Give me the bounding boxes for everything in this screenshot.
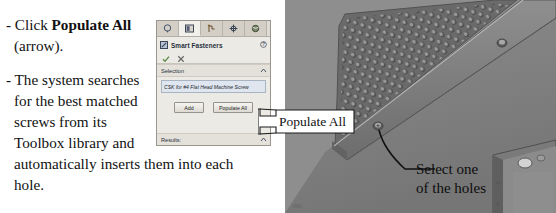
countersunk-hole[interactable] xyxy=(373,122,383,130)
annotation-line-2: of the holes xyxy=(416,179,486,198)
callout-label: Populate All xyxy=(279,108,353,135)
sphere-icon xyxy=(251,24,260,33)
solidworks-3d-viewport[interactable]: Select one of the holes xyxy=(285,0,556,213)
checkmark-icon[interactable] xyxy=(162,49,170,67)
bullet2-line-1: - The system searches xyxy=(6,71,139,88)
panel-icon xyxy=(185,24,194,33)
panel-title-bar: Smart Fasteners ? xyxy=(157,37,270,52)
flange-hole-secondary[interactable] xyxy=(497,39,507,47)
annotation-line-1: Select one xyxy=(416,160,486,179)
configuration-manager-tab[interactable] xyxy=(201,21,223,36)
crosshair-icon xyxy=(229,24,238,33)
panel-button-row[interactable]: Add Populate All xyxy=(157,102,270,113)
display-manager-tab[interactable] xyxy=(245,21,267,36)
panel-action-row[interactable] xyxy=(157,52,270,64)
svg-text:?: ? xyxy=(262,42,265,47)
property-manager-tabstrip[interactable] xyxy=(157,21,270,37)
results-group-header[interactable]: Results: xyxy=(157,133,270,145)
selection-group-label: Selection xyxy=(161,68,260,74)
bullet1-prefix: - Click xyxy=(6,16,52,33)
populate-all-button[interactable]: Populate All xyxy=(213,102,253,113)
question-icon[interactable]: ? xyxy=(260,41,267,49)
bullet1-bold-term: Populate All xyxy=(52,16,132,33)
selection-group-header[interactable]: Selection xyxy=(157,64,270,77)
bullet2-line-5: automatically inserts them into each xyxy=(6,153,288,174)
bullet2-line-6: hole. xyxy=(6,174,288,195)
feature-manager-tab[interactable] xyxy=(157,21,179,36)
property-manager-tab[interactable] xyxy=(179,21,201,36)
selection-input-field[interactable]: CSK for #4 Flat Head Machine Screw xyxy=(161,80,266,93)
config-icon xyxy=(207,24,216,33)
add-button[interactable]: Add xyxy=(174,102,204,113)
select-hole-annotation: Select one of the holes xyxy=(416,160,486,198)
populate-all-callout: Populate All xyxy=(258,108,355,135)
x-icon[interactable] xyxy=(177,49,185,67)
results-group-label: Results: xyxy=(161,137,260,143)
chevron-up-icon[interactable] xyxy=(260,68,267,74)
chevron-up-icon[interactable] xyxy=(260,137,267,143)
tree-icon xyxy=(163,24,172,33)
smart-fasteners-property-manager[interactable]: Smart Fasteners ? Selection CSK for #4 F… xyxy=(156,20,271,146)
background-artifact xyxy=(292,204,302,208)
panel-title-label: Smart Fasteners xyxy=(171,42,257,49)
dimxpert-manager-tab[interactable] xyxy=(223,21,245,36)
